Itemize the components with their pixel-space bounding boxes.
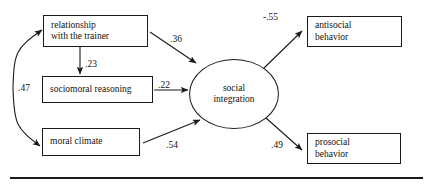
node-label-line: sociomoral reasoning [50, 84, 152, 96]
node-label-line: behavior [315, 32, 401, 44]
edge-social-to-antisocial [262, 31, 302, 70]
node-moral-climate: moral climate [42, 128, 140, 156]
edge-label-rel-moral-correlation: .47 [18, 83, 30, 93]
node-label-line: moral climate [50, 136, 139, 148]
node-relationship-with-the-trainer: relationship with the trainer [43, 15, 148, 47]
node-label-line: social [223, 83, 245, 95]
edge-label-rel-to-social: .36 [170, 34, 182, 44]
edge-label-social-to-antisocial: -.55 [263, 12, 278, 22]
node-label-line: antisocial [315, 20, 401, 32]
node-label-line: prosocial [315, 137, 400, 149]
node-label-line: with the trainer [51, 31, 147, 43]
path-diagram: relationship with the trainer sociomoral… [0, 0, 433, 189]
node-prosocial-behavior: prosocial behavior [307, 133, 401, 164]
footer-divider [10, 177, 423, 179]
node-label-line: integration [213, 94, 254, 106]
node-social-integration: social integration [189, 59, 279, 129]
node-label-line: behavior [315, 149, 400, 161]
edge-label-socio-to-social: .22 [158, 80, 170, 90]
node-sociomoral-reasoning: sociomoral reasoning [42, 76, 153, 103]
edge-label-social-to-prosocial: .49 [271, 140, 283, 150]
edge-label-moral-to-social: .54 [166, 140, 178, 150]
node-antisocial-behavior: antisocial behavior [307, 16, 402, 47]
edge-label-rel-to-socio: .23 [85, 59, 97, 69]
node-label-line: relationship [51, 20, 147, 32]
